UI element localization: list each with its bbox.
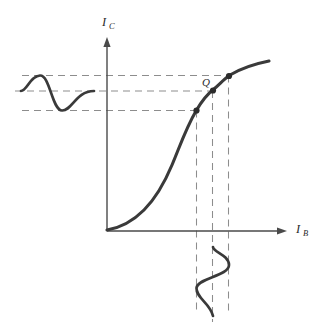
q-point-label: Q <box>202 76 210 88</box>
lower-swing-point-dot <box>193 107 199 113</box>
q-point-dot <box>210 87 216 93</box>
transfer-characteristic-figure: I C I B Q <box>0 0 323 330</box>
y-axis-label-symbol: I <box>101 15 107 29</box>
upper-swing-point-dot <box>226 73 232 79</box>
x-axis-label: I B <box>295 222 308 238</box>
y-axis-arrowhead <box>103 37 110 47</box>
y-axis-label-subscript: C <box>109 21 115 31</box>
vertical-projection-lines <box>197 76 229 323</box>
y-axis-label: I C <box>101 15 115 31</box>
output-signal-waveform <box>196 247 229 316</box>
axes-group <box>103 37 287 235</box>
figure-canvas: I C I B Q <box>0 0 323 330</box>
x-axis-arrowhead <box>277 227 287 234</box>
input-signal-waveform <box>21 75 94 110</box>
x-axis-label-subscript: B <box>303 228 308 238</box>
x-axis-label-symbol: I <box>295 222 301 236</box>
transfer-curve-path <box>107 61 269 230</box>
